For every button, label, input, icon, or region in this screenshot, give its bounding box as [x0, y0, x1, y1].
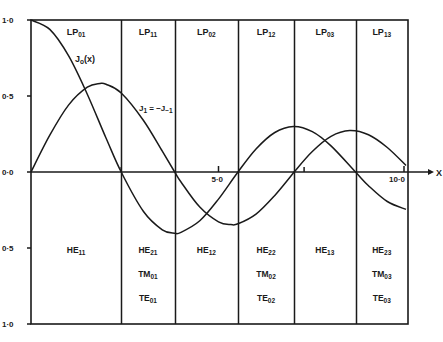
hybrid-mode-label: TE03 — [373, 293, 391, 304]
lp-mode-label: LP01 — [67, 27, 86, 38]
hybrid-mode-label: TE01 — [139, 293, 157, 304]
bessel-mode-diagram: X Jo(x)J1 = −J−1LP01HE11LP11HE21TM01TE01… — [0, 0, 443, 342]
hybrid-mode-label: TM01 — [138, 269, 158, 280]
lp-mode-label: LP11 — [139, 27, 158, 38]
bessel-curves — [31, 20, 406, 234]
hybrid-mode-label: TM02 — [256, 269, 276, 280]
lp-mode-label: LP12 — [257, 27, 276, 38]
lp-mode-label: LP13 — [372, 27, 391, 38]
y-tick-label: 1·0 — [2, 16, 14, 25]
x-axis-label: X — [436, 168, 442, 178]
hybrid-mode-label: HE13 — [315, 245, 334, 256]
y-tick-label: 0·5 — [2, 244, 14, 253]
j0-label: Jo(x) — [75, 54, 95, 65]
x-axis-arrow-icon — [428, 169, 434, 175]
x-tick-label: 10·0 — [389, 175, 406, 184]
j0-curve — [31, 20, 406, 234]
hybrid-mode-label: HE21 — [138, 245, 157, 256]
lp-mode-label: LP02 — [197, 27, 216, 38]
x-tick-label: 5·0 — [212, 175, 224, 184]
y-tick-label: 0·5 — [2, 92, 14, 101]
mode-labels: Jo(x)J1 = −J−1LP01HE11LP11HE21TM01TE01LP… — [67, 27, 392, 304]
y-tick-label: 0·0 — [2, 168, 14, 177]
lp-mode-label: LP03 — [315, 27, 334, 38]
hybrid-mode-label: TE02 — [257, 293, 275, 304]
j1-curve — [31, 83, 406, 225]
y-tick-label: 1·0 — [2, 320, 14, 329]
hybrid-mode-label: HE23 — [372, 245, 391, 256]
j1-label: J1 = −J−1 — [139, 104, 173, 114]
hybrid-mode-label: TM03 — [372, 269, 392, 280]
hybrid-mode-label: HE12 — [197, 245, 216, 256]
hybrid-mode-label: HE22 — [257, 245, 276, 256]
hybrid-mode-label: HE11 — [67, 245, 86, 256]
